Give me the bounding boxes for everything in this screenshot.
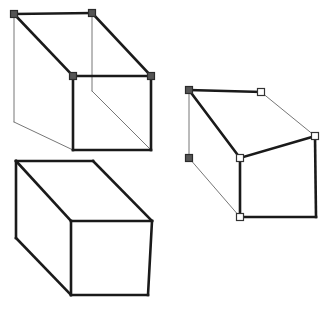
boxes-scene (0, 0, 326, 311)
vertex-marker-front_top_right[interactable] (312, 133, 319, 140)
vertex-marker-front_bottom_left[interactable] (237, 214, 244, 221)
visible-edge-4 (315, 136, 316, 217)
vertex-marker-back_top_right[interactable] (258, 89, 265, 96)
vertex-marker-back_top_left[interactable] (11, 11, 18, 18)
vertex-marker-front_top_left[interactable] (70, 73, 77, 80)
vertex-marker-back_top_right[interactable] (89, 10, 96, 17)
vertex-marker-front_top_left[interactable] (237, 155, 244, 162)
vertex-marker-back_bottom_left[interactable] (186, 155, 193, 162)
vertex-marker-front_top_right[interactable] (148, 73, 155, 80)
box-face-1 (71, 221, 152, 295)
drawing-canvas (0, 0, 326, 311)
vertex-marker-back_top_left[interactable] (186, 87, 193, 94)
visible-edge-0 (14, 13, 92, 14)
